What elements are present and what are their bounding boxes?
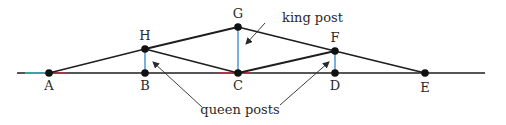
truss-nodes xyxy=(45,23,429,77)
queen-post-arrow-1 xyxy=(153,62,202,107)
member-GF xyxy=(238,27,335,51)
queen-post-arrow-2 xyxy=(280,62,329,105)
node-label-H: H xyxy=(139,28,150,43)
member-HC xyxy=(145,49,238,73)
king-post-label: king post xyxy=(282,10,344,25)
member-HG xyxy=(145,27,238,49)
node-labels: ABCDEHGF xyxy=(43,6,429,95)
node-label-B: B xyxy=(140,78,150,93)
truss-members xyxy=(49,27,425,73)
node-label-G: G xyxy=(233,6,243,21)
node-label-F: F xyxy=(330,30,339,45)
node-E xyxy=(421,69,429,77)
member-FE xyxy=(335,51,425,73)
node-C xyxy=(234,69,242,77)
node-label-E: E xyxy=(420,80,430,95)
node-H xyxy=(141,45,149,53)
node-B xyxy=(141,69,149,77)
queen-posts-label: queen posts xyxy=(200,102,279,117)
node-A xyxy=(45,69,53,77)
annotations: king post queen posts xyxy=(153,10,344,117)
node-G xyxy=(234,23,242,31)
node-F xyxy=(331,47,339,55)
queen-post-truss-diagram: ABCDEHGF king post queen posts xyxy=(0,0,506,125)
member-AH xyxy=(49,49,145,73)
node-label-D: D xyxy=(330,78,340,93)
node-label-A: A xyxy=(43,78,54,93)
node-D xyxy=(331,69,339,77)
posts xyxy=(145,27,335,73)
node-label-C: C xyxy=(233,78,243,93)
